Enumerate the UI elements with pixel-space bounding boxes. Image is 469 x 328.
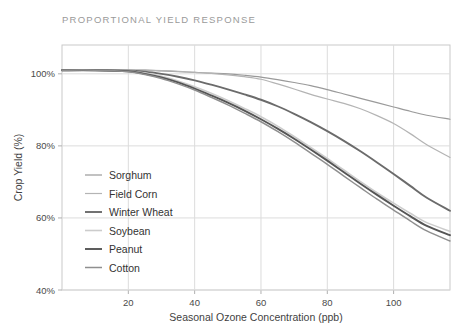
x-axis-title: Seasonal Ozone Concentration (ppb) bbox=[169, 311, 342, 323]
legend-label-peanut: Peanut bbox=[109, 243, 142, 255]
legend-label-winter-wheat: Winter Wheat bbox=[109, 206, 173, 218]
legend-label-cotton: Cotton bbox=[109, 262, 140, 274]
series-line-sorghum bbox=[62, 70, 450, 119]
x-tick-label: 100 bbox=[386, 297, 402, 308]
x-tick-label: 60 bbox=[256, 297, 267, 308]
x-tick-label: 40 bbox=[189, 297, 200, 308]
y-tick-label: 100% bbox=[31, 68, 56, 79]
x-tick-label: 20 bbox=[123, 297, 134, 308]
legend-label-soybean: Soybean bbox=[109, 225, 151, 237]
legend-label-field-corn: Field Corn bbox=[109, 188, 158, 200]
y-tick-label: 60% bbox=[36, 212, 56, 223]
plot-canvas: 2040608010040%60%80%100%Seasonal Ozone C… bbox=[0, 0, 469, 328]
y-tick-label: 80% bbox=[36, 140, 56, 151]
x-tick-label: 80 bbox=[322, 297, 333, 308]
chart-figure: PROPORTIONAL YIELD RESPONSE 204060801004… bbox=[0, 0, 469, 328]
legend-label-sorghum: Sorghum bbox=[109, 169, 152, 181]
y-axis-title: Crop Yield (%) bbox=[12, 134, 24, 202]
y-tick-label: 40% bbox=[36, 285, 56, 296]
